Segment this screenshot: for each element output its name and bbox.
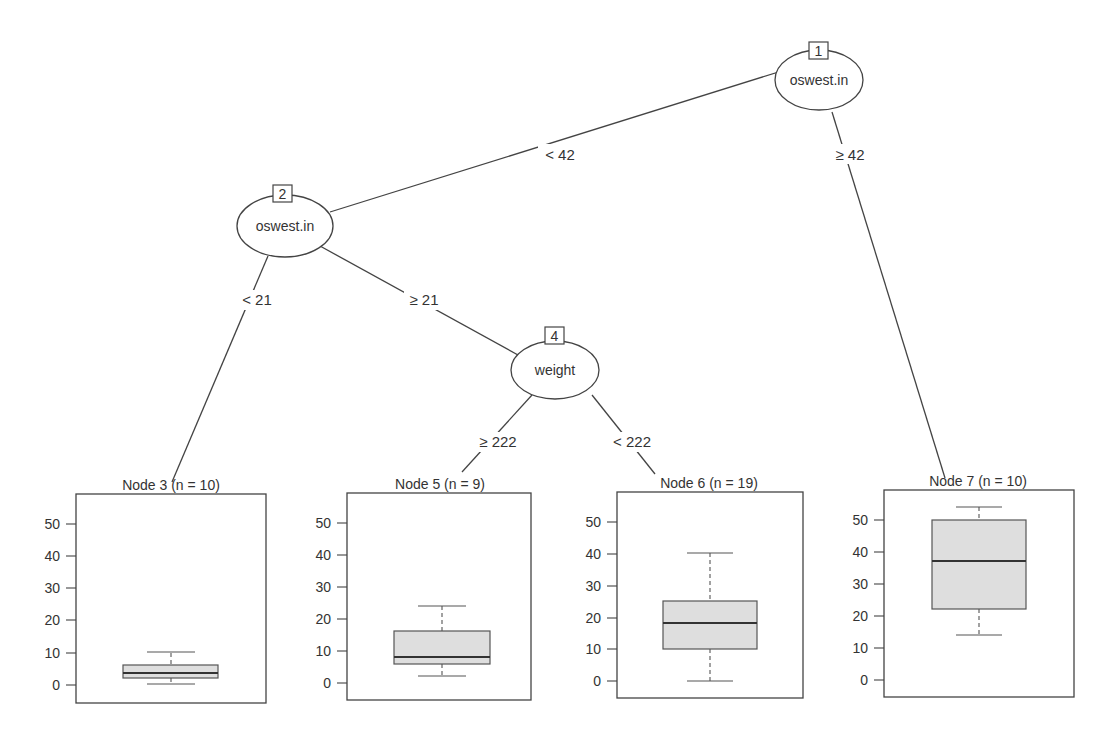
decision-tree-diagram: < 42 ≥ 42 < 21 ≥ 21 ≥ 222 < 222 1 oswest…: [0, 0, 1108, 739]
edge-label-4-5: ≥ 222: [479, 433, 516, 450]
terminal-title-5: Node 5 (n = 9): [395, 476, 485, 492]
node-id-4: 4: [551, 328, 559, 344]
svg-text:20: 20: [852, 608, 868, 624]
edge-label-4-6: < 222: [613, 433, 651, 450]
inner-node-1: 1 oswest.in: [775, 42, 863, 110]
svg-text:40: 40: [852, 544, 868, 560]
terminal-title-7: Node 7 (n = 10): [929, 473, 1027, 489]
y-axis-3: 50 40 30 20 10 0: [44, 516, 76, 693]
edge-label-1-7: ≥ 42: [835, 146, 864, 163]
y-axis-6: 50 40 30 20 10 0: [585, 514, 617, 689]
svg-text:20: 20: [585, 610, 601, 626]
y-axis-7: 50 40 30 20 10 0: [852, 512, 884, 688]
edge-2-3: [172, 256, 268, 482]
svg-text:40: 40: [315, 547, 331, 563]
node-variable-2: oswest.in: [256, 218, 314, 234]
terminal-node-7: Node 7 (n = 10) 50 40 30 20 10 0: [852, 473, 1074, 697]
svg-text:20: 20: [315, 611, 331, 627]
terminal-node-5: Node 5 (n = 9) 50 40 30 20 10 0: [315, 476, 531, 700]
svg-text:10: 10: [585, 641, 601, 657]
svg-text:0: 0: [593, 673, 601, 689]
svg-text:50: 50: [852, 512, 868, 528]
svg-text:0: 0: [323, 675, 331, 691]
svg-text:0: 0: [52, 677, 60, 693]
edge-label-2-4: ≥ 21: [409, 291, 438, 308]
node-id-1: 1: [815, 43, 823, 59]
edge-1-2: [330, 70, 785, 212]
inner-node-2: 2 oswest.in: [237, 185, 333, 257]
svg-text:50: 50: [315, 515, 331, 531]
svg-text:10: 10: [852, 640, 868, 656]
svg-text:50: 50: [44, 516, 60, 532]
svg-text:30: 30: [852, 576, 868, 592]
node-id-2: 2: [279, 186, 287, 202]
node-variable-1: oswest.in: [790, 72, 848, 88]
svg-text:30: 30: [44, 580, 60, 596]
svg-text:20: 20: [44, 612, 60, 628]
terminal-node-3: Node 3 (n = 10) 50 40 30 20 10 0: [44, 477, 266, 703]
node-variable-4: weight: [534, 362, 576, 378]
edge-1-7: [832, 112, 945, 478]
inner-node-4: 4 weight: [511, 327, 599, 399]
svg-text:40: 40: [585, 546, 601, 562]
svg-text:10: 10: [44, 645, 60, 661]
svg-text:30: 30: [315, 579, 331, 595]
terminal-title-3: Node 3 (n = 10): [122, 477, 220, 493]
svg-text:30: 30: [585, 578, 601, 594]
terminal-title-6: Node 6 (n = 19): [660, 475, 758, 491]
edge-label-1-2: < 42: [545, 146, 575, 163]
svg-text:0: 0: [860, 672, 868, 688]
svg-text:40: 40: [44, 548, 60, 564]
terminal-node-6: Node 6 (n = 19) 50 40 30 20 10 0: [585, 475, 803, 698]
y-axis-5: 50 40 30 20 10 0: [315, 515, 347, 691]
edge-label-2-3: < 21: [242, 291, 272, 308]
svg-text:50: 50: [585, 514, 601, 530]
svg-text:10: 10: [315, 643, 331, 659]
